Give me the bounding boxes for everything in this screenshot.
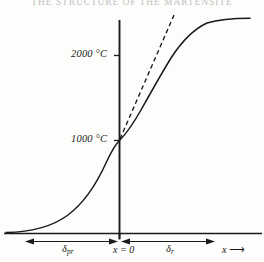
temperature-profile-curve [6, 18, 250, 232]
figure-container: THE STRUCTURE OF THE MARTENSITE 2000 °C … [0, 0, 264, 262]
delta-r-right-arrowhead [206, 238, 215, 244]
tangent-dashed-line [120, 15, 174, 139]
delta-r-subscript: r [171, 247, 174, 256]
y-axis-label-2000: 2000 °C [71, 48, 107, 59]
x-axis-label: x⟶ [222, 243, 245, 256]
temperature-profile-plot [0, 0, 264, 262]
delta-pr-subscript: pr [67, 247, 74, 256]
delta-pr-left-arrowhead [25, 238, 34, 244]
delta-pr-label: δpr [62, 243, 74, 256]
delta-r-label: δr [166, 243, 174, 256]
x-axis-arrow-glyph: ⟶ [227, 243, 245, 255]
y-axis-label-1000: 1000 °C [71, 133, 107, 144]
origin-label: x = 0 [113, 244, 134, 255]
x-axis-symbol: x [222, 244, 227, 255]
